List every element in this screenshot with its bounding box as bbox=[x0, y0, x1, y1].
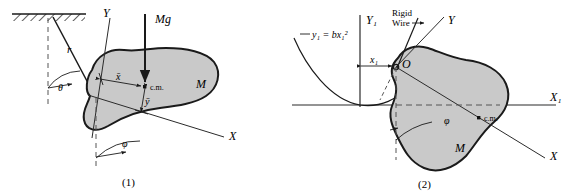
label-body-mass-1: M bbox=[195, 77, 207, 91]
center-of-mass-point-1 bbox=[143, 85, 146, 88]
caption-panel-1: (1) bbox=[122, 176, 135, 189]
label-x1: x₁ bbox=[369, 54, 378, 65]
label-axis-x1: X₁ bbox=[549, 90, 562, 104]
label-theta: θ bbox=[58, 82, 63, 93]
label-axis-x-2: X bbox=[549, 149, 558, 163]
ceiling-support bbox=[12, 14, 86, 21]
panel-1: r θ Y X Mg c.m. x̄ ȳ M φ bbox=[12, 6, 237, 189]
label-body-mass-2: M bbox=[454, 141, 466, 155]
label-mg: Mg bbox=[154, 12, 171, 26]
label-axis-y-1: Y bbox=[103, 6, 111, 20]
label-r: r bbox=[67, 43, 72, 55]
center-of-mass-point-2 bbox=[477, 116, 480, 119]
label-rigid-wire-line2: Wire bbox=[392, 18, 410, 28]
caption-panel-2: (2) bbox=[418, 178, 431, 191]
label-curve-equation: y₁ = bx₁² bbox=[311, 29, 349, 40]
label-axis-x-1: X bbox=[228, 129, 237, 143]
label-phi-2: φ bbox=[444, 115, 450, 126]
label-rigid-wire-line1: Rigid bbox=[392, 8, 413, 18]
label-origin-O: O bbox=[402, 57, 411, 71]
label-cm-1: c.m. bbox=[150, 83, 164, 92]
label-axis-y-2: Y bbox=[448, 13, 456, 27]
label-x-bar: x̄ bbox=[115, 71, 121, 82]
label-y-bar: ȳ bbox=[144, 96, 150, 107]
figure-canvas: r θ Y X Mg c.m. x̄ ȳ M φ bbox=[0, 0, 579, 196]
label-axis-y1: Y₁ bbox=[366, 13, 377, 27]
label-cm-2: c.m. bbox=[484, 114, 498, 123]
physics-figure: r θ Y X Mg c.m. x̄ ȳ M φ bbox=[0, 0, 579, 196]
label-phi-1: φ bbox=[122, 138, 128, 149]
parabola-track bbox=[294, 38, 406, 106]
panel-2: X₁ Y₁ y₁ = bx₁² x₁ Rigid Wire Y X O bbox=[292, 8, 562, 191]
